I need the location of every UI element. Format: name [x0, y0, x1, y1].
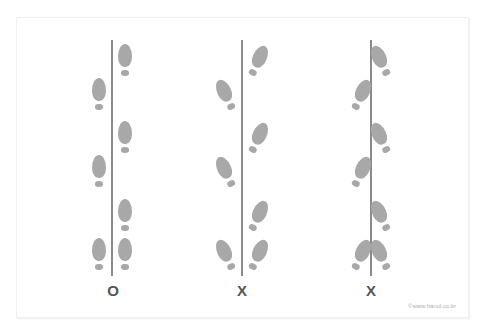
right-footprint-icon [118, 121, 132, 155]
heel-shape [381, 262, 391, 271]
sole-shape [118, 121, 132, 144]
heel-shape [248, 145, 258, 154]
heel-shape [351, 102, 361, 111]
heel-shape [351, 262, 361, 271]
heel-shape [381, 68, 391, 77]
sole-shape [118, 238, 132, 261]
heel-shape [226, 102, 236, 111]
center-line-straight [111, 40, 113, 276]
left-footprint-icon [92, 78, 106, 112]
heel-shape [95, 104, 103, 110]
right-footprint-icon [118, 238, 132, 272]
sole-shape [92, 78, 106, 101]
heel-shape [95, 181, 103, 187]
sole-shape [118, 44, 132, 67]
heel-shape [226, 179, 236, 188]
sole-shape [118, 199, 132, 222]
heel-shape [248, 262, 258, 271]
left-footprint-icon [92, 238, 106, 272]
heel-shape [381, 223, 391, 232]
heel-shape [95, 264, 103, 270]
sole-shape [92, 238, 106, 261]
verdict-label-in-toed: X [366, 282, 376, 299]
copyright-credit: ©www.hanol.co.kr [408, 303, 456, 309]
heel-shape [381, 145, 391, 154]
heel-shape [248, 68, 258, 77]
heel-shape [121, 225, 129, 231]
heel-shape [121, 147, 129, 153]
center-line-out-toed [241, 40, 243, 276]
right-footprint-icon [118, 199, 132, 233]
heel-shape [351, 179, 361, 188]
heel-shape [121, 264, 129, 270]
left-footprint-icon [92, 155, 106, 189]
heel-shape [121, 70, 129, 76]
verdict-label-straight: O [107, 282, 119, 299]
heel-shape [248, 223, 258, 232]
right-footprint-icon [118, 44, 132, 78]
heel-shape [226, 262, 236, 271]
verdict-label-out-toed: X [237, 282, 247, 299]
sole-shape [92, 155, 106, 178]
